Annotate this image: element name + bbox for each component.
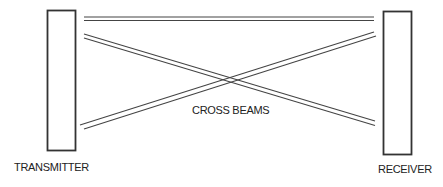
transmitter-label: TRANSMITTER [14, 161, 89, 173]
receiver-label: RECEIVER [378, 163, 432, 175]
receiver-box [384, 12, 412, 155]
straight-beam [84, 17, 374, 21]
transmitter-box [48, 11, 76, 151]
cross-beams-label: CROSS BEAMS [192, 104, 269, 116]
diagram-canvas [0, 0, 443, 187]
